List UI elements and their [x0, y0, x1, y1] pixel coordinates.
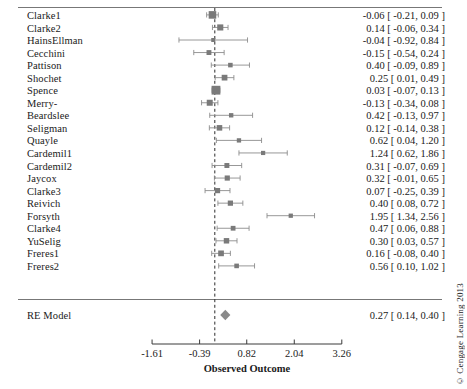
study-label: Reivich — [27, 198, 60, 209]
estimate-ci-text: -0.13 [ -0.34, 0.08 ] — [363, 98, 445, 109]
estimate-ci-text: 0.16 [ -0.08, 0.40 ] — [366, 248, 445, 259]
estimate-ci-text: 0.03 [ -0.07, 0.13 ] — [366, 85, 445, 96]
study-label: Seligman — [27, 123, 67, 134]
table-row: Freres20.56 [ 0.10, 1.02 ] — [0, 262, 467, 275]
study-label: Spence — [27, 85, 58, 96]
x-tick-label: 3.26 — [312, 348, 372, 359]
study-label: HainsEllman — [27, 35, 83, 46]
study-label: Clarke2 — [27, 23, 61, 34]
study-label: Cardemil2 — [27, 161, 72, 172]
summary-label: RE Model — [27, 310, 71, 321]
estimate-ci-text: 0.62 [ 0.04, 1.20 ] — [370, 135, 445, 146]
estimate-ci-text: 0.32 [ -0.01, 0.65 ] — [366, 173, 445, 184]
forest-plot-figure: Clarke1-0.06 [ -0.21, 0.09 ]Clarke20.14 … — [0, 0, 467, 389]
study-label: Pattison — [27, 60, 62, 71]
estimate-ci-text: -0.15 [ -0.54, 0.24 ] — [363, 48, 445, 59]
study-label: Clarke3 — [27, 186, 61, 197]
estimate-ci-text: 0.42 [ -0.13, 0.97 ] — [366, 110, 445, 121]
study-label: Jaycox — [27, 173, 57, 184]
study-label: Quayle — [27, 135, 58, 146]
study-label: Shochet — [27, 73, 62, 84]
study-label: YuSelig — [27, 236, 61, 247]
study-label: Merry- — [27, 98, 57, 109]
estimate-ci-text: 0.56 [ 0.10, 1.02 ] — [370, 261, 445, 272]
study-label: Beardslee — [27, 110, 69, 121]
study-label: Clarke1 — [27, 10, 61, 21]
axis-title: Observed Outcome — [187, 363, 307, 374]
estimate-ci-text: 0.31 [ -0.07, 0.69 ] — [366, 161, 445, 172]
summary-estimate-text: 0.27 [ 0.14, 0.40 ] — [370, 310, 445, 321]
estimate-ci-text: -0.06 [ -0.21, 0.09 ] — [363, 10, 445, 21]
estimate-ci-text: 0.40 [ -0.09, 0.89 ] — [366, 60, 445, 71]
estimate-ci-text: 0.25 [ 0.01, 0.49 ] — [370, 73, 445, 84]
estimate-ci-text: 0.07 [ -0.25, 0.39 ] — [366, 186, 445, 197]
summary-diamond — [220, 310, 230, 320]
estimate-ci-text: 0.14 [ -0.06, 0.34 ] — [366, 23, 445, 34]
copyright-credit: © Cengage Learning 2013 — [455, 283, 465, 386]
study-label: Freres2 — [27, 261, 59, 272]
study-label: Freres1 — [27, 248, 59, 259]
estimate-ci-text: 1.95 [ 1.34, 2.56 ] — [370, 211, 445, 222]
top-rule — [18, 7, 442, 8]
summary-separator-rule — [18, 299, 442, 300]
estimate-ci-text: 0.40 [ 0.08, 0.72 ] — [370, 198, 445, 209]
study-label: Forsyth — [27, 211, 60, 222]
study-rows: Clarke1-0.06 [ -0.21, 0.09 ]Clarke20.14 … — [0, 11, 467, 274]
estimate-ci-text: 0.30 [ 0.03, 0.57 ] — [370, 236, 445, 247]
study-label: Cecchini — [27, 48, 65, 59]
estimate-ci-text: -0.04 [ -0.92, 0.84 ] — [363, 35, 445, 46]
estimate-ci-text: 1.24 [ 0.62, 1.86 ] — [370, 148, 445, 159]
study-label: Clarke4 — [27, 223, 61, 234]
study-label: Cardemil1 — [27, 148, 72, 159]
estimate-ci-text: 0.12 [ -0.14, 0.38 ] — [366, 123, 445, 134]
estimate-ci-text: 0.47 [ 0.06, 0.88 ] — [370, 223, 445, 234]
